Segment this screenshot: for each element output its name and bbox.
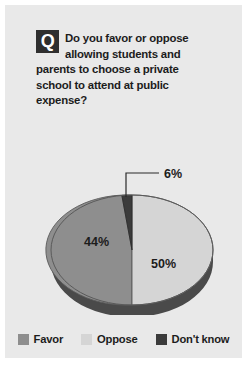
legend-label-dont-know: Don't know (172, 333, 230, 345)
legend-item-oppose: Oppose (81, 333, 137, 345)
pie-chart-svg: 6% 44% 50% (5, 155, 242, 315)
legend-swatch-favor (18, 334, 29, 345)
legend-label-favor: Favor (34, 333, 63, 345)
pie-slice-favor (46, 195, 132, 305)
question-block: Q Do you favor or oppose allowing studen… (36, 31, 214, 109)
chart-legend: Favor Oppose Don't know (5, 333, 242, 345)
pie-chart: 6% 44% 50% (5, 155, 242, 315)
pie-label-dont-know: 6% (164, 167, 182, 181)
pie-label-oppose: 50% (151, 257, 176, 271)
legend-swatch-dont-know (156, 334, 167, 345)
callout-line-dont-know (126, 173, 159, 197)
poll-card: Q Do you favor or oppose allowing studen… (5, 5, 242, 358)
question-text: Do you favor or oppose allowing students… (36, 31, 214, 109)
question-badge-icon: Q (36, 30, 59, 53)
pie-label-favor: 44% (84, 235, 109, 249)
legend-item-dont-know: Don't know (156, 333, 230, 345)
legend-swatch-oppose (81, 334, 92, 345)
legend-item-favor: Favor (18, 333, 63, 345)
legend-label-oppose: Oppose (97, 333, 137, 345)
